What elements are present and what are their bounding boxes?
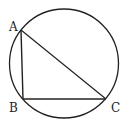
point-label-b: B (9, 101, 18, 115)
geometry-diagram: A B C (0, 0, 127, 122)
segment-ac (21, 30, 106, 99)
circumcircle (10, 9, 119, 118)
point-label-c: C (111, 101, 120, 115)
segment-ab (21, 30, 23, 99)
point-label-a: A (8, 20, 18, 34)
